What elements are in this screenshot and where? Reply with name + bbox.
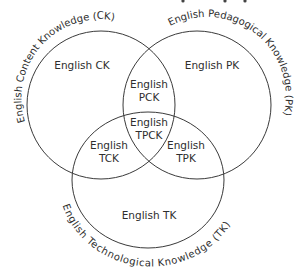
clipped-title-fragment (181, 0, 246, 3)
tpck-line2: TPCK (135, 129, 164, 141)
tk-region-label: English TK (122, 209, 178, 221)
tck-region: English TCK (90, 139, 128, 164)
pk-region-label: English PK (185, 59, 241, 71)
tpk-line2: TPK (175, 152, 197, 164)
tpack-venn-diagram: English Content Knowledge (CK) English P… (0, 0, 297, 280)
pck-line2: PCK (139, 91, 161, 103)
tck-line1: English (90, 139, 128, 151)
pck-line1: English (130, 78, 168, 90)
ck-region-label: English CK (54, 59, 111, 71)
tpk-region: English TPK (167, 139, 205, 164)
pk-circle (123, 31, 271, 179)
tck-line2: TCK (98, 152, 120, 164)
tpck-line1: English (130, 116, 168, 128)
venn-svg: English Content Knowledge (CK) English P… (0, 0, 297, 280)
tpk-line1: English (167, 139, 205, 151)
pck-region: English PCK (130, 78, 168, 103)
tpck-region: English TPCK (130, 116, 168, 141)
